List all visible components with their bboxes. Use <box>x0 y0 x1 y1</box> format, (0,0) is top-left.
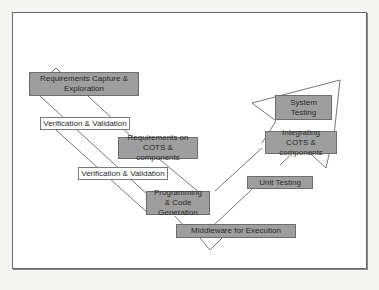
integrating-cots-label: Integrating COTS & components <box>270 128 332 158</box>
middleware-box: Middleware for Execution <box>176 224 296 238</box>
programming-label: Programming & Code Generation <box>151 188 205 218</box>
programming-box: Programming & Code Generation <box>146 191 210 215</box>
middleware-label: Middleware for Execution <box>191 226 281 236</box>
requirements-cots-label: Requirements on COTS & components <box>123 133 193 163</box>
system-testing-box: System Testing <box>275 95 332 120</box>
system-testing-label: System Testing <box>282 98 325 118</box>
integrating-cots-box: Integrating COTS & components <box>265 131 337 154</box>
unit-testing-box: Unit Testing <box>247 176 313 189</box>
requirements-cots-box: Requirements on COTS & components <box>118 137 198 159</box>
requirements-capture-label: Requirements Capture & Exploration <box>30 74 138 94</box>
requirements-capture-box: Requirements Capture & Exploration <box>29 72 139 96</box>
unit-testing-label: Unit Testing <box>259 178 301 188</box>
verification-validation-upper: Verification & Validation <box>40 117 130 130</box>
verification-validation-lower: Verification & Validation <box>78 167 168 180</box>
